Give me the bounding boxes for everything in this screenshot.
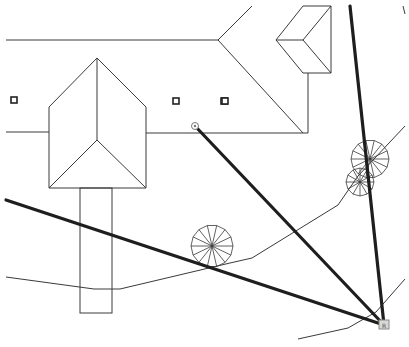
walkway-rect (80, 188, 112, 313)
dormer-hip (303, 40, 331, 73)
tree-icon[interactable] (351, 141, 389, 178)
contour-line (298, 279, 405, 339)
vent-markers[interactable] (11, 97, 228, 104)
target-point-dot (194, 125, 196, 127)
dormer-roof[interactable] (276, 6, 331, 73)
tree-icon[interactable] (191, 226, 233, 267)
main-building[interactable] (6, 6, 308, 133)
vent-marker-icon[interactable] (173, 98, 179, 104)
sightlines[interactable] (6, 6, 384, 325)
station-label: R (382, 322, 386, 329)
trees[interactable] (191, 141, 389, 267)
edge-tick (403, 6, 405, 14)
site-plan-canvas[interactable]: R (0, 0, 409, 347)
drawing-viewport[interactable]: R (0, 0, 409, 347)
dormer-ridge (276, 6, 331, 40)
left-wing-roof[interactable] (49, 58, 146, 188)
walkway[interactable] (80, 188, 112, 313)
hip-line (218, 40, 303, 133)
roof-ridge-line (6, 6, 252, 40)
vent-marker-icon[interactable] (11, 97, 17, 103)
sightline[interactable] (6, 200, 384, 325)
sightline[interactable] (350, 6, 384, 325)
vent-marker-icon[interactable] (222, 98, 228, 104)
contour-lines (6, 6, 405, 339)
wing-hip-valley (49, 140, 146, 188)
